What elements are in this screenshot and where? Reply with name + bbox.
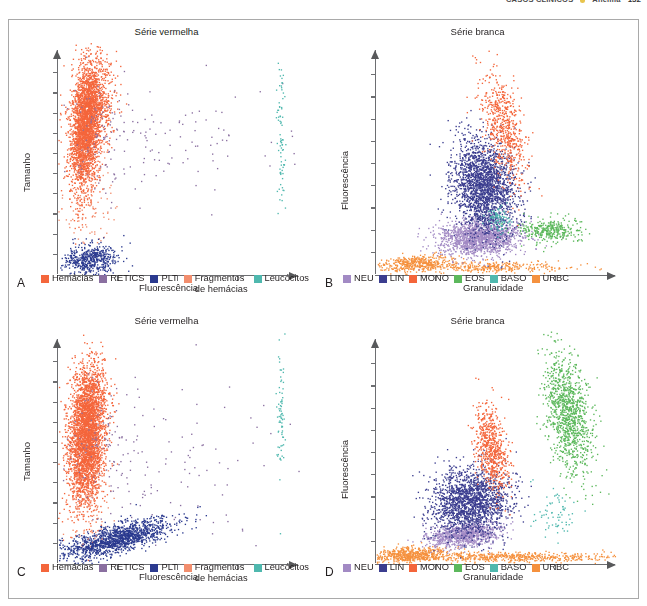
legend-item-leucócitos: Leucócitos (254, 562, 309, 573)
legend-label: NEU (354, 562, 374, 573)
legend-item-baso: BASO (490, 562, 527, 573)
y-axis-tick (371, 474, 376, 475)
y-axis-tick (53, 402, 58, 403)
legend-label: EOS (465, 273, 485, 284)
legend-swatch-icon (41, 564, 49, 572)
legend-swatch-icon (490, 275, 498, 283)
y-axis-arrow-icon (371, 339, 379, 348)
y-axis-tick (53, 502, 58, 503)
legend-item-hemácias: Hemácias (41, 273, 93, 284)
y-axis-tick (53, 153, 58, 154)
y-axis-tick (53, 381, 58, 382)
panel-a: Série vermelha Tamanho Fluorescência A H… (9, 20, 324, 309)
y-axis-arrow-icon (53, 50, 61, 59)
legend-label: LIN (390, 273, 404, 284)
figure-frame: Série vermelha Tamanho Fluorescência A H… (8, 19, 639, 599)
legend-swatch-icon (254, 564, 262, 572)
legend-swatch-icon (490, 564, 498, 572)
panel-grid: Série vermelha Tamanho Fluorescência A H… (9, 20, 638, 598)
legend-label: Fragmentos de hemácias (195, 273, 248, 295)
legend-label: MONO (420, 273, 449, 284)
panel-b-letter: B (325, 276, 333, 290)
y-axis-tick (371, 452, 376, 453)
panel-c-scatter-canvas (57, 331, 305, 565)
panel-d-y-axis (375, 339, 376, 563)
legend-label: RETICS (110, 562, 144, 573)
panel-d: Série branca Fluorescência Granularidade… (323, 309, 638, 598)
panel-a-letter: A (17, 276, 25, 290)
panel-d-title: Série branca (323, 315, 638, 326)
legend-label: Fragmentos de hemácias (195, 562, 248, 584)
page-number: 152 (628, 0, 641, 4)
panel-c-letter: C (17, 565, 26, 579)
y-axis-arrow-icon (53, 339, 61, 348)
legend-swatch-icon (454, 564, 462, 572)
y-axis-tick (371, 430, 376, 431)
y-axis-tick (53, 92, 58, 93)
legend-label: URBC (543, 273, 569, 284)
y-axis-tick (53, 213, 58, 214)
y-axis-tick (371, 541, 376, 542)
legend-item-leucócitos: Leucócitos (254, 273, 309, 284)
legend-item-fragmentos: Fragmentos de hemácias (184, 273, 248, 295)
legend-label: Hemácias (52, 562, 93, 573)
legend-label: PLT (161, 562, 177, 573)
bullet-dot-icon (580, 0, 585, 3)
legend-swatch-icon (343, 564, 351, 572)
y-axis-tick (371, 408, 376, 409)
legend-swatch-icon (379, 564, 387, 572)
y-axis-tick (53, 113, 58, 114)
panel-b-plot: Fluorescência Granularidade (375, 42, 619, 276)
legend-item-retics: RETICS (99, 273, 144, 284)
panel-d-y-label: Fluorescência (339, 440, 350, 499)
legend-item-mono: MONO (409, 273, 449, 284)
panel-b-legend: B NEULINMONOEOSBASOURBC (323, 269, 638, 303)
legend-item-plt: PLT (150, 562, 177, 573)
y-axis-tick (53, 173, 58, 174)
panel-d-letter: D (325, 565, 334, 579)
panel-b-y-axis (375, 50, 376, 274)
y-axis-tick (371, 252, 376, 253)
legend-item-neu: NEU (343, 562, 374, 573)
legend-swatch-icon (409, 275, 417, 283)
legend-swatch-icon (184, 275, 192, 283)
panel-c: Série vermelha Tamanho Fluorescência C H… (9, 309, 324, 598)
y-axis-tick (53, 72, 58, 73)
y-axis-tick (53, 133, 58, 134)
legend-label: PLT (161, 273, 177, 284)
legend-swatch-icon (343, 275, 351, 283)
panel-d-legend-items: NEULINMONOEOSBASOURBC (343, 562, 569, 573)
y-axis-tick (371, 96, 376, 97)
legend-item-neu: NEU (343, 273, 374, 284)
panel-a-scatter-canvas (57, 42, 305, 276)
y-axis-tick (371, 207, 376, 208)
panel-b-title: Série branca (323, 26, 638, 37)
panel-d-scatter-canvas (375, 331, 619, 565)
legend-item-urbc: URBC (532, 273, 569, 284)
legend-swatch-icon (150, 275, 158, 283)
legend-item-hemácias: Hemácias (41, 562, 93, 573)
legend-item-lin: LIN (379, 273, 404, 284)
panel-a-plot: Tamanho Fluorescência (57, 42, 305, 276)
legend-swatch-icon (379, 275, 387, 283)
y-axis-tick (371, 163, 376, 164)
panel-c-y-axis (57, 339, 58, 563)
legend-label: Leucócitos (265, 273, 309, 284)
legend-item-eos: EOS (454, 273, 485, 284)
legend-item-plt: PLT (150, 273, 177, 284)
legend-swatch-icon (454, 275, 462, 283)
y-axis-tick (53, 234, 58, 235)
panel-a-y-label: Tamanho (21, 153, 32, 192)
y-axis-tick (371, 519, 376, 520)
panel-c-plot: Tamanho Fluorescência (57, 331, 305, 565)
legend-label: Leucócitos (265, 562, 309, 573)
legend-label: MONO (420, 562, 449, 573)
y-axis-arrow-icon (371, 50, 379, 59)
legend-label: RETICS (110, 273, 144, 284)
legend-item-mono: MONO (409, 562, 449, 573)
panel-d-legend: D NEULINMONOEOSBASOURBC (323, 558, 638, 592)
y-axis-tick (371, 385, 376, 386)
panel-a-title: Série vermelha (9, 26, 324, 37)
legend-label: BASO (501, 562, 527, 573)
panel-b-legend-items: NEULINMONOEOSBASOURBC (343, 273, 569, 284)
